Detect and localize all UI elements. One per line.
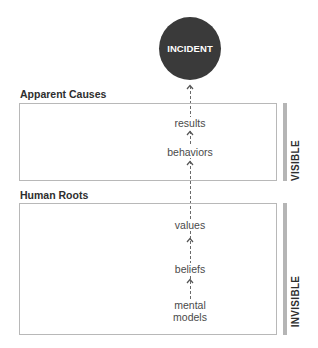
node-mental-models-line-1: mental xyxy=(150,299,230,311)
invisible-label: INVISIBLE xyxy=(290,273,301,331)
arrow-up-icon xyxy=(186,84,194,90)
apparent-causes-box xyxy=(19,103,277,181)
visible-label: VISIBLE xyxy=(290,138,301,184)
node-results: results xyxy=(150,117,230,129)
incident-node: INCIDENT xyxy=(159,17,221,80)
section-heading-apparent-causes: Apparent Causes xyxy=(20,88,106,100)
node-mental-models-line-2: models xyxy=(150,311,230,323)
invisible-bar xyxy=(283,203,287,335)
node-beliefs: beliefs xyxy=(150,263,230,275)
human-roots-box xyxy=(19,203,277,335)
node-values: values xyxy=(150,219,230,231)
incident-label: INCIDENT xyxy=(167,43,213,54)
section-heading-human-roots: Human Roots xyxy=(20,189,88,201)
node-behaviors: behaviors xyxy=(150,146,230,158)
node-mental-models: mental models xyxy=(150,299,230,323)
visible-bar xyxy=(283,103,287,181)
